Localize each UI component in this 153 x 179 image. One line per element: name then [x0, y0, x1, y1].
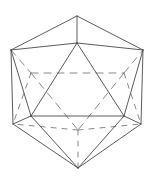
icosahedron-figure [0, 0, 153, 179]
